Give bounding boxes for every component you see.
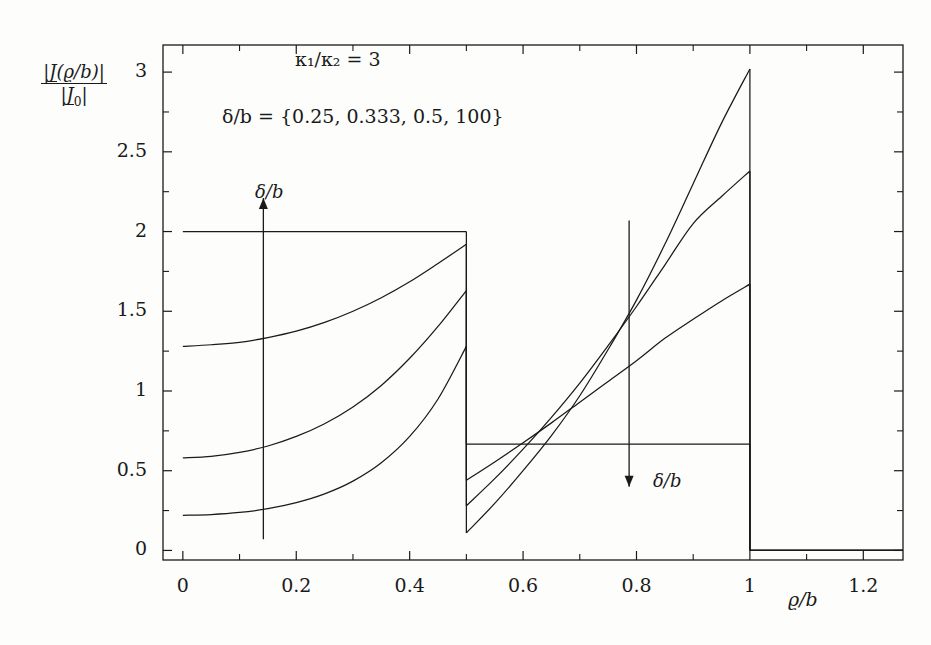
y-tick-label: 1.5 — [91, 298, 147, 320]
curve-series — [183, 232, 903, 551]
x-tick-label: 1.2 — [835, 574, 891, 596]
arrow-up-label-text: δ/b — [255, 181, 283, 202]
x-tick-label: 0.4 — [382, 574, 438, 596]
x-tick-label: 0.8 — [608, 574, 664, 596]
arrow-down-label: δ/b — [653, 470, 681, 491]
figure-canvas: |J(ϱ/b)| |J0| ϱ/b κ₁/κ₂ = 3 δ/b = {0.25,… — [0, 0, 931, 645]
curve-segment — [466, 171, 750, 506]
curve-segment — [183, 244, 467, 346]
curve-series — [183, 171, 903, 550]
y-label-den-J: J — [66, 87, 73, 105]
y-label-J: J — [49, 64, 56, 82]
y-tick-label: 0 — [91, 537, 147, 559]
arrow-down-label-text: δ/b — [653, 470, 681, 491]
x-axis-label: ϱ/b — [788, 588, 818, 610]
curve-segment — [183, 346, 467, 515]
annotation-kappa-ratio-text: κ₁/κ₂ = 3 — [295, 48, 380, 70]
annotation-delta-set-text: δ/b = {0.25, 0.333, 0.5, 100} — [222, 105, 504, 127]
x-tick-label: 0 — [155, 574, 211, 596]
y-tick-label: 3 — [91, 59, 147, 81]
y-label-den-sub: 0 — [74, 95, 82, 109]
x-tick-label: 0.2 — [268, 574, 324, 596]
curve-segment — [183, 291, 467, 458]
y-label-den-abs-close: | — [82, 84, 88, 105]
annotation-delta-set: δ/b = {0.25, 0.333, 0.5, 100} — [222, 105, 504, 127]
y-tick-label: 0.5 — [91, 458, 147, 480]
annotation-arrowhead-down — [625, 476, 634, 487]
curve-segment — [466, 284, 750, 480]
x-tick-label: 0.6 — [495, 574, 551, 596]
annotation-kappa-ratio: κ₁/κ₂ = 3 — [295, 48, 380, 70]
arrow-up-label: δ/b — [255, 181, 283, 202]
curve-segment — [466, 69, 750, 533]
y-tick-label: 2 — [91, 219, 147, 241]
x-axis-label-text: ϱ/b — [788, 588, 818, 610]
y-tick-label: 1 — [91, 378, 147, 400]
x-tick-label: 1 — [722, 574, 778, 596]
y-tick-label: 2.5 — [91, 139, 147, 161]
curve-series — [183, 69, 903, 551]
